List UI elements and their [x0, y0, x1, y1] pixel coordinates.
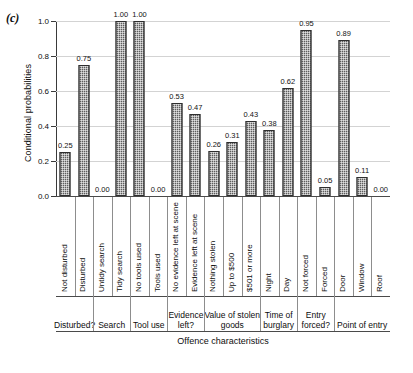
category-separator [297, 197, 298, 296]
category-separator [371, 197, 372, 296]
bar-value-label: 0.25 [58, 141, 73, 150]
y-axis-tick-label: 0.4 [38, 122, 49, 131]
bar-slot: 0.43 [242, 21, 261, 196]
group-label: Search [98, 321, 125, 332]
category-label: Tidy search [115, 251, 124, 292]
y-axis-tick-label: 0.2 [38, 157, 49, 166]
group-label-cell: Time of burglary [260, 295, 297, 331]
bar-slot: 0.31 [223, 21, 242, 196]
bar-value-label: 0.89 [336, 29, 351, 38]
bar [357, 177, 368, 196]
category-label-band: Not disturbedDisturbedUntidy searchTidy … [56, 196, 390, 297]
group-separator [260, 295, 261, 331]
y-axis-tick-label: 0.6 [38, 87, 49, 96]
category-separator [223, 197, 224, 296]
category-separator [260, 197, 261, 296]
category-separator [242, 197, 243, 296]
bar [115, 21, 126, 196]
category-separator [204, 197, 205, 296]
group-label-cell: Evidence left? [167, 295, 204, 331]
y-axis-tick-label: 0.8 [38, 52, 49, 61]
group-separator [204, 295, 205, 331]
group-label: Tool use [133, 321, 165, 332]
category-label-cell: Day [279, 197, 298, 296]
category-label: Day [282, 278, 291, 292]
category-label-cell: No tools used [130, 197, 149, 296]
bar-slot: 1.00 [130, 21, 149, 196]
category-label-cell: No evidence left at scene [167, 197, 186, 296]
bar [134, 21, 145, 196]
category-label-cell: Forced [316, 197, 335, 296]
bar [190, 114, 201, 196]
bar [78, 65, 89, 196]
category-separator [279, 197, 280, 296]
group-label: Disturbed? [54, 321, 95, 332]
bar-slot: 0.47 [186, 21, 205, 196]
y-axis-tick-label: 0.0 [38, 192, 49, 201]
bar-slot: 0.25 [56, 21, 75, 196]
bar-slot: 0.26 [204, 21, 223, 196]
panel-label: (c) [6, 11, 19, 26]
bar [301, 30, 312, 196]
group-separator [167, 295, 168, 331]
category-label-cell: Untidy search [93, 197, 112, 296]
bar-value-label: 0.11 [355, 166, 369, 175]
category-separator [186, 197, 187, 296]
bar-value-label: 0.31 [225, 131, 240, 140]
bar-value-label: 1.00 [114, 10, 129, 19]
bar-value-label: 0.00 [151, 185, 166, 194]
category-label: Night [264, 273, 273, 292]
bar-value-label: 1.00 [132, 10, 147, 19]
category-label: Nothing stolen [208, 241, 217, 292]
category-label: No evidence left at scene [171, 202, 180, 292]
category-separator [334, 197, 335, 296]
category-label-cell: Up to $500 [223, 197, 242, 296]
bar-slot: 0.95 [297, 21, 316, 196]
group-label-band: Disturbed?SearchTool useEvidence left?Va… [56, 295, 390, 332]
group-separator [297, 295, 298, 331]
bar [320, 187, 331, 196]
group-label-cell: Tool use [130, 295, 167, 331]
category-label-cell: Tidy search [112, 197, 131, 296]
bar [208, 151, 219, 197]
group-separator [334, 295, 335, 331]
category-label-cell: Evidence left at scene [186, 197, 205, 296]
group-label-cell: Value of stolen goods [204, 295, 260, 331]
bar-slot: 0.53 [167, 21, 186, 196]
y-axis-title: Conditional probabilities [23, 23, 33, 203]
bar-slot: 0.11 [353, 21, 372, 196]
bar [227, 142, 238, 196]
y-axis-tick-label: 1.0 [38, 17, 49, 26]
bar-value-label: 0.00 [95, 185, 110, 194]
category-separator [75, 197, 76, 296]
bar-value-label: 0.38 [262, 119, 277, 128]
category-label: Window [357, 264, 366, 292]
bar-slot: 1.00 [112, 21, 131, 196]
bar-slot: 0.62 [279, 21, 298, 196]
bar [282, 88, 293, 197]
category-label: $501 or more [245, 244, 254, 292]
bar [338, 40, 349, 196]
group-label: Point of entry [337, 321, 387, 332]
bar-value-label: 0.00 [373, 185, 388, 194]
category-label-cell: Tools used [149, 197, 168, 296]
category-label: Tools used [153, 254, 162, 292]
bar-value-label: 0.47 [188, 103, 203, 112]
category-label: Evidence left at scene [190, 214, 199, 292]
bar-value-label: 0.75 [77, 54, 92, 63]
group-label-cell: Entry forced? [297, 295, 334, 331]
bar-value-label: 0.43 [244, 110, 259, 119]
category-label-cell: Night [260, 197, 279, 296]
bar-slot: 0.00 [149, 21, 168, 196]
category-separator [130, 197, 131, 296]
category-separator [149, 197, 150, 296]
category-label: No tools used [134, 243, 143, 292]
bar-slot: 0.00 [371, 21, 390, 196]
group-separator [130, 295, 131, 331]
bar-value-label: 0.62 [281, 77, 296, 86]
bar-value-label: 0.05 [318, 176, 333, 185]
category-label-cell: Door [334, 197, 353, 296]
group-separator [93, 295, 94, 331]
category-label: Up to $500 [227, 253, 236, 292]
bar-slot: 0.38 [260, 21, 279, 196]
